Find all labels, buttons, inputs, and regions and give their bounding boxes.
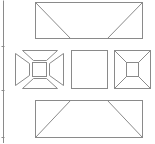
right-view-inner-square <box>127 63 139 77</box>
right-view-connector <box>115 51 127 63</box>
bottom-view-diagonal <box>36 101 71 138</box>
top-view <box>36 3 143 39</box>
bottom-view-diagonal <box>108 101 143 138</box>
frustum-views-diagram <box>0 0 155 143</box>
right-view-connector <box>115 77 127 89</box>
right-view-connector <box>139 77 151 89</box>
center-view-square <box>72 51 108 89</box>
left-exploded-view <box>16 51 64 89</box>
left-view-left-trapezoid <box>16 54 30 86</box>
top-view-diagonal <box>108 3 143 39</box>
left-view-top-trapezoid <box>23 51 58 61</box>
diagram-lines <box>2 1 151 144</box>
left-view-bottom-trapezoid <box>23 79 58 89</box>
top-view-rect <box>36 3 143 39</box>
right-view <box>115 51 151 89</box>
bottom-view-rect <box>36 101 143 138</box>
top-view-diagonal <box>36 3 71 39</box>
left-view-right-trapezoid <box>50 54 64 86</box>
left-view-inner-square <box>33 63 47 77</box>
right-view-connector <box>139 51 151 63</box>
center-view <box>72 51 108 89</box>
scale-line <box>2 1 5 144</box>
bottom-view <box>36 101 143 138</box>
